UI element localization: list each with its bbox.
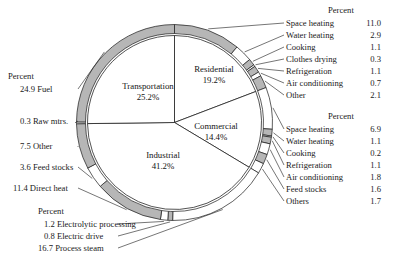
commercial-item-feed-stocks: Feed stocks [286,184,327,194]
residential-item-refrigeration: Refrigeration [286,66,333,76]
pie-slice-transportation [87,36,174,124]
leader-line [253,47,284,61]
residential-item-air-conditioning: Air conditioning [286,78,344,88]
commercial-value-others: 1.7 [370,196,381,206]
leader-line [261,73,284,83]
commercial-item-others: Others [286,196,310,206]
residential-value-clothes-drying: 0.3 [370,54,381,64]
commercial-value-air-conditioning: 1.8 [370,172,381,182]
slice-value-industrial: 41.2% [152,161,175,171]
residential-item-clothes-drying: Clothes drying [286,54,338,64]
commercial-item-cooking: Cooking [286,148,316,158]
commercial-item-space-heating: Space heating [286,124,335,134]
residential-item-cooking: Cooking [286,42,316,52]
residential-value-cooking: 1.1 [370,42,381,52]
left-percent-header: Percent [8,71,34,81]
leader-line [270,150,284,177]
slice-label-residential: Residential [194,64,234,74]
industrial-item-feed-stocks: 3.6 Feed stocks [20,162,74,172]
industrial-item-electrolytic-processing: 1.2 Electrolytic processing [44,219,137,229]
commercial-value-cooking: 0.2 [370,148,381,158]
industrial-item-process-steam: 16.7 Process steam [38,243,104,253]
leader-line [208,23,284,29]
residential-value-air-conditioning: 0.7 [370,78,381,88]
bottom-breakdown-list: Percent 1.2 Electrolytic processing 0.8 … [38,206,137,253]
commercial-value-refrigeration: 1.1 [370,160,381,170]
residential-value-other: 2.1 [370,90,381,100]
residential-value-space-heating: 11.0 [366,18,381,28]
residential-item-other: Other [286,90,306,100]
slice-label-commercial: Commercial [194,121,238,131]
slice-label-industrial: Industrial [146,150,180,160]
transportation-item-fuel: 24.9 Fuel [20,84,53,94]
leader-line [262,169,284,201]
slice-label-transportation: Transportation [122,81,174,91]
commercial-value-space-heating: 6.9 [370,124,381,134]
energy-flow-pie-chart: Transportation 25.2% Residential 19.2% C… [0,0,397,256]
commercial-value-feed-stocks: 1.6 [370,184,381,194]
leader-line [256,59,284,65]
residential-value-refrigeration: 1.1 [370,66,381,76]
transportation-item-raw-mtrs: 0.3 Raw mtrs. [20,116,68,126]
commercial-percent-header: Percent [328,111,354,121]
commercial-breakdown-list: Percent Space heating 6.9 Water heating … [286,111,382,206]
commercial-item-refrigeration: Refrigeration [286,160,333,170]
left-breakdown-list: Percent 24.9 Fuel 0.3 Raw mtrs. 7.5 Othe… [8,71,74,193]
slice-value-commercial: 14.4% [205,132,228,142]
industrial-item-electric-drive: 0.8 Electric drive [44,231,104,241]
bottom-percent-header: Percent [38,206,64,216]
residential-value-water-heating: 2.9 [370,30,381,40]
leader-line [267,160,284,189]
slice-value-residential: 19.2% [203,75,226,85]
commercial-item-water-heating: Water heating [286,136,334,146]
slice-value-transportation: 25.2% [137,92,160,102]
industrial-item-other: 7.5 Other [20,141,53,151]
commercial-value-water-heating: 1.1 [370,136,381,146]
industrial-item-direct-heat: 11.4 Direct heat [13,183,68,193]
residential-item-water-heating: Water heating [286,30,334,40]
residential-breakdown-list: Percent Space heating 11.0 Water heating… [286,5,382,100]
residential-percent-header: Percent [328,5,354,15]
leader-line [258,68,284,71]
leader-line [273,108,284,129]
commercial-item-air-conditioning: Air conditioning [286,172,344,182]
residential-item-space-heating: Space heating [286,18,335,28]
